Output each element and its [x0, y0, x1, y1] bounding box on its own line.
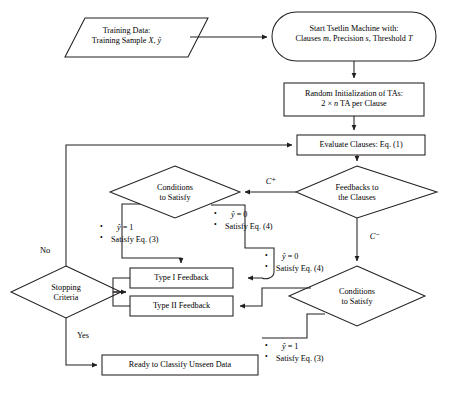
node-shape-start: [272, 12, 436, 61]
node-shape-ready: [102, 355, 258, 375]
node-shape-evaluate-clauses: [297, 135, 425, 155]
node-shape-type-i-feedback: [130, 268, 233, 288]
edge-stopping-yes-to-ready: [66, 318, 97, 365]
node-shape-type-ii-feedback: [130, 296, 233, 316]
edge-conditions-top-left-to-type-i: [122, 204, 181, 263]
node-shape-random-init: [284, 83, 424, 116]
node-shape-stopping-criteria: [11, 266, 121, 318]
node-shape-conditions-top: [110, 166, 240, 218]
flowchart-connectors-and-shapes: [0, 0, 449, 397]
flowchart-canvas: Training Data: Training Sample X, ŷ Star…: [0, 0, 449, 397]
node-shape-training-data: [65, 18, 208, 57]
node-shape-conditions-bottom: [289, 266, 425, 326]
edge-conditions-bottom-right-to-type-ii: [262, 314, 325, 338]
node-shape-feedbacks: [296, 166, 437, 218]
